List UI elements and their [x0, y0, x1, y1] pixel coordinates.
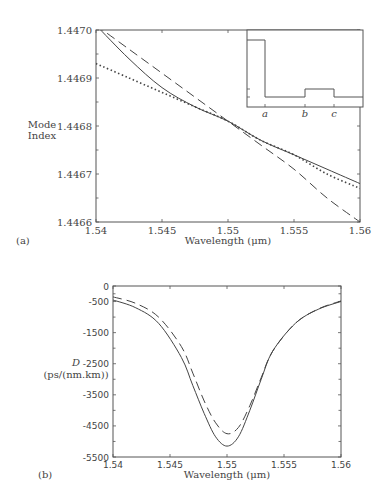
- x-tick-label: 1.545: [148, 225, 177, 236]
- panel-b-xlabel: Wavelength (μm): [184, 469, 270, 480]
- panel-a-ylabel-line1: Mode: [28, 119, 57, 130]
- inset-label-b: b: [302, 108, 308, 119]
- y-tick-label: 1.4469: [57, 73, 92, 84]
- inset-label-a: a: [262, 108, 268, 119]
- inset-label-c: c: [331, 108, 337, 119]
- x-tick-label: 1.555: [271, 460, 297, 470]
- y-tick-label: 1.4467: [57, 169, 92, 180]
- panel-b-ylabel-line2: (ps/(nm.km)): [43, 369, 108, 380]
- y-tick-label: -2500: [83, 359, 109, 369]
- panel-a-label: (a): [16, 235, 30, 246]
- panel-b-curves: [113, 297, 341, 446]
- dashed-curve: [113, 297, 341, 434]
- y-tick-label: -500: [89, 297, 110, 307]
- x-tick-label: 1.56: [349, 225, 371, 236]
- panel-b-label: (b): [38, 469, 52, 480]
- panel-a-xlabel: Wavelength (μm): [185, 235, 271, 246]
- y-tick-label: 1.4470: [57, 25, 92, 36]
- y-tick-label: -5500: [83, 453, 109, 463]
- y-tick-label: -1500: [83, 328, 109, 338]
- x-tick-label: 1.555: [280, 225, 309, 236]
- y-tick-label: 1.4468: [57, 121, 92, 132]
- panel-b-axes-frame: [113, 286, 341, 457]
- solid-curve: [113, 300, 341, 446]
- y-tick-label: -3500: [83, 390, 109, 400]
- panel-b-ylabel-line1: D: [71, 357, 80, 368]
- panel-a-mode-index-chart: 1.541.5451.551.5551.561.44661.44671.4468…: [16, 25, 371, 247]
- x-tick-label: 1.56: [331, 460, 351, 470]
- panel-b-dispersion-chart: 1.541.5451.551.5551.560-500-1500-2500-35…: [38, 282, 351, 481]
- y-tick-label: -4500: [83, 421, 109, 431]
- y-tick-label: 1.4466: [57, 217, 92, 228]
- panel-b-ticks: 1.541.5451.551.5551.560-500-1500-2500-35…: [83, 282, 351, 471]
- panel-a-ylabel-line2: Index: [28, 130, 57, 141]
- panel-a-inset-profile: a b c: [247, 30, 363, 119]
- x-tick-label: 1.545: [157, 460, 183, 470]
- y-tick-label: 0: [103, 282, 109, 292]
- figure: 1.541.5451.551.5551.561.44661.44671.4468…: [0, 0, 383, 504]
